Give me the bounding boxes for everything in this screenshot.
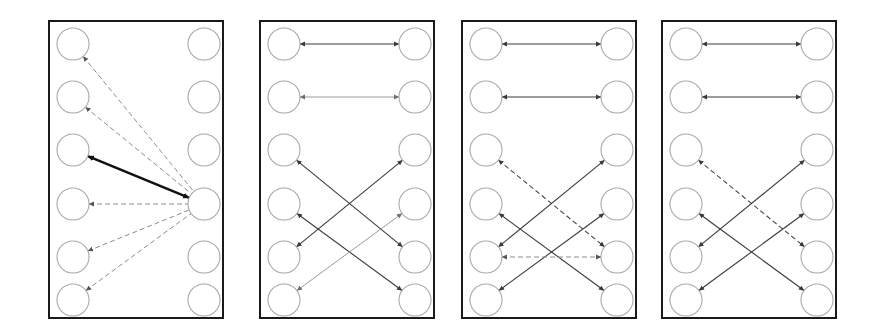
node-left-1[interactable] (670, 28, 702, 60)
node-right-3[interactable] (801, 134, 833, 166)
node-left-4[interactable] (470, 188, 502, 220)
node-right-2[interactable] (188, 81, 220, 113)
node-right-4[interactable] (601, 188, 633, 220)
node-left-1[interactable] (470, 28, 502, 60)
node-left-4[interactable] (268, 188, 300, 220)
panels-root (49, 21, 836, 318)
node-left-5[interactable] (57, 241, 89, 273)
panel-4 (662, 21, 836, 318)
panel-frame (49, 21, 223, 318)
node-left-3[interactable] (268, 134, 300, 166)
node-right-2[interactable] (601, 81, 633, 113)
node-right-3[interactable] (399, 134, 431, 166)
node-left-1[interactable] (268, 28, 300, 60)
panel-frame (462, 21, 636, 318)
node-right-3[interactable] (601, 134, 633, 166)
panel-frame (260, 21, 434, 318)
node-right-5[interactable] (801, 241, 833, 273)
panel-frame (662, 21, 836, 318)
node-left-2[interactable] (470, 81, 502, 113)
panel-1 (49, 21, 223, 318)
panel-3 (462, 21, 636, 318)
diagram-canvas (0, 0, 873, 336)
node-left-6[interactable] (670, 284, 702, 316)
node-right-1[interactable] (801, 28, 833, 60)
node-left-2[interactable] (268, 81, 300, 113)
node-right-4[interactable] (399, 188, 431, 220)
node-right-5[interactable] (601, 241, 633, 273)
node-right-5[interactable] (399, 241, 431, 273)
node-left-6[interactable] (268, 284, 300, 316)
node-left-1[interactable] (57, 28, 89, 60)
node-left-2[interactable] (57, 81, 89, 113)
node-left-3[interactable] (670, 134, 702, 166)
node-right-6[interactable] (801, 284, 833, 316)
node-left-5[interactable] (470, 241, 502, 273)
diagram-figure (0, 0, 873, 336)
panel-2 (260, 21, 434, 318)
node-left-6[interactable] (57, 284, 89, 316)
node-right-4[interactable] (801, 188, 833, 220)
node-right-1[interactable] (399, 28, 431, 60)
node-left-5[interactable] (670, 241, 702, 273)
node-right-4[interactable] (188, 188, 220, 220)
node-right-2[interactable] (399, 81, 431, 113)
node-left-5[interactable] (268, 241, 300, 273)
node-left-3[interactable] (57, 134, 89, 166)
node-left-2[interactable] (670, 81, 702, 113)
node-left-6[interactable] (470, 284, 502, 316)
node-right-1[interactable] (601, 28, 633, 60)
node-right-6[interactable] (399, 284, 431, 316)
node-right-1[interactable] (188, 28, 220, 60)
node-left-4[interactable] (57, 188, 89, 220)
node-left-4[interactable] (670, 188, 702, 220)
node-right-2[interactable] (801, 81, 833, 113)
node-right-6[interactable] (601, 284, 633, 316)
node-right-3[interactable] (188, 134, 220, 166)
node-left-3[interactable] (470, 134, 502, 166)
node-right-5[interactable] (188, 241, 220, 273)
node-right-6[interactable] (188, 284, 220, 316)
